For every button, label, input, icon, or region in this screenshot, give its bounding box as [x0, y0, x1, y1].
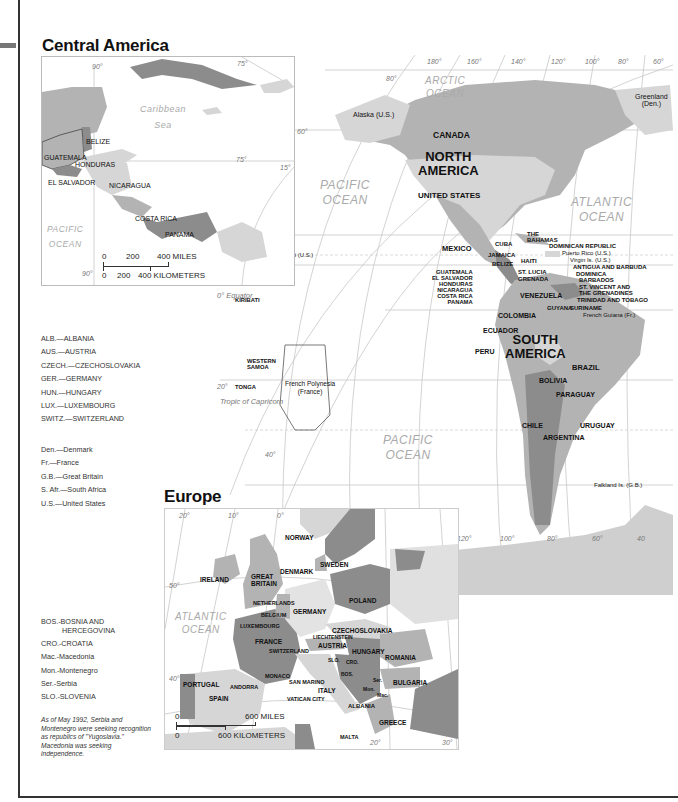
lon-140-label: 140° — [511, 58, 525, 65]
legend-countries-upper: ALB.—ALBANIA AUS.—AUSTRIA CZECH.—CZECHOS… — [41, 335, 140, 429]
eu-label-ireland: IRELAND — [200, 577, 229, 584]
ca-pacific-ocean-label: PACIFICOCEAN — [47, 222, 83, 253]
lon-160-label: 160° — [467, 58, 481, 65]
legend-item: ALB.—ALBANIA — [41, 335, 140, 348]
ca-scale-km-0: 0 — [102, 271, 106, 280]
bottom-lon-80-label: 80° — [547, 535, 558, 542]
yugoslavia-note: As of May 1992, Serbia and Montenegro we… — [41, 716, 156, 759]
eu-label-spain: SPAIN — [209, 696, 228, 703]
ca-label-belize: BELIZE — [86, 138, 110, 145]
label-guyana: GUYANA — [547, 305, 572, 311]
label-peru: PERU — [475, 348, 494, 355]
south-pacific-ocean-label: PACIFICOCEAN — [383, 433, 433, 463]
legend-item: Fr.—France — [41, 459, 106, 472]
ca-scale-km-400: 400 KILOMETERS — [138, 271, 205, 280]
eu-label-portugal: PORTUGAL — [183, 682, 219, 689]
label-jamaica: JAMAICA — [488, 252, 515, 258]
arctic-ocean-label: ARCTICOCEAN — [425, 75, 465, 100]
eu-lon-10w: 10° — [228, 512, 239, 519]
ca-lat-15: 15° — [280, 164, 291, 171]
europe-title: Europe — [164, 487, 221, 507]
ca-lon-75-top: 75° — [237, 60, 248, 67]
label-mexico: MEXICO — [442, 245, 472, 253]
legend-item: LUX.—LUXEMBOURG — [41, 402, 140, 415]
label-barbados: BARBADOS — [579, 277, 614, 283]
legend-item: SWITZ.—SWITZERLAND — [41, 415, 140, 428]
atlantic-ocean-label: ATLANTICOCEAN — [571, 195, 632, 225]
legend-item: GER.—GERMANY — [41, 375, 140, 388]
label-greenland: Greenland(Den.) — [635, 93, 668, 107]
label-falkland-islands: Falkland Is. (G.B.) — [594, 482, 642, 488]
ca-label-panama: PANAMA — [165, 231, 194, 238]
lon-60-label: 60° — [653, 58, 664, 65]
eu-label-belgium: BELGIUM — [261, 613, 286, 619]
north-america-label: NORTHAMERICA — [418, 150, 479, 177]
label-cuba: CUBA — [495, 241, 512, 247]
eu-label-netherlands: NETHERLANDS — [253, 601, 295, 607]
eu-label-switzerland: SWITZERLAND — [269, 649, 309, 655]
label-kiribati: KIRIBATI — [235, 298, 260, 304]
eu-lon-20w: 20° — [179, 512, 190, 519]
eu-label-luxembourg: LUXEMBOURG — [240, 624, 280, 630]
lon-180-label: 180° — [427, 58, 441, 65]
eu-label-denmark: DENMARK — [280, 569, 313, 576]
label-western-samoa: WESTERNSAMOA — [247, 358, 276, 370]
legend-item: HUN.—HUNGARY — [41, 389, 140, 402]
label-bahamas: THEBAHAMAS — [527, 231, 558, 243]
label-french-polynesia: French Polynesia(France) — [285, 380, 335, 396]
eu-label-sweden: SWEDEN — [320, 562, 349, 569]
ca-lon-75-right: 75° — [236, 156, 247, 163]
eu-label-croatia: CRO. — [346, 660, 359, 665]
bottom-lon-100-label: 100° — [500, 535, 514, 542]
eu-label-austria: AUSTRIA — [318, 643, 347, 650]
ca-scale-miles-200: 200 — [126, 252, 139, 261]
eu-label-bosnia: BOS. — [341, 672, 353, 677]
label-uruguay: URUGUAY — [580, 422, 615, 429]
central-america-title: Central America — [42, 36, 169, 56]
eu-label-montenegro: Mon. — [363, 687, 375, 692]
europe-inset: 20° 10° 0° 50° 40° 20° 30° ATLANTICOCEAN… — [164, 508, 459, 750]
ca-scale-km-200: 200 — [117, 271, 130, 280]
label-st-vincent: ST. VINCENT ANDTHE GRENADINES — [579, 284, 633, 296]
label-brazil: BRAZIL — [572, 364, 600, 372]
legend-item: CZECH.—CZECHOSLOVAKIA — [41, 362, 140, 375]
legend-item: Den.—Denmark — [41, 446, 106, 459]
eu-label-san-marino: SAN MARINO — [289, 680, 324, 686]
page-tab-marker — [0, 43, 16, 48]
eu-label-france: FRANCE — [255, 639, 282, 646]
north-pacific-ocean-label: PACIFICOCEAN — [320, 178, 370, 208]
eu-label-norway: NORWAY — [285, 535, 314, 542]
label-grenada: GRENADA — [518, 276, 548, 282]
eu-label-andorra: ANDORRA — [230, 685, 258, 691]
label-st-lucia: ST. LUCIA — [518, 269, 547, 275]
eu-label-italy: ITALY — [318, 688, 336, 695]
eu-label-hungary: HUNGARY — [352, 649, 385, 656]
eu-label-serbia: Ser. — [373, 678, 382, 683]
eu-label-monaco: MONACO — [265, 674, 290, 680]
eu-lon-20e: 20° — [370, 739, 381, 746]
label-french-guiana: French Guiana (Fr.) — [583, 312, 635, 318]
label-colombia: COLOMBIA — [498, 312, 536, 319]
label-virgin-islands: Virgin Is. (U.S.) — [570, 257, 611, 263]
lon-120-label: 120° — [551, 58, 565, 65]
label-alaska: Alaska (U.S.) — [353, 111, 394, 118]
label-chile: CHILE — [522, 422, 543, 429]
eu-label-vatican-city: VATICAN CITY — [287, 697, 325, 703]
ca-label-nicaragua: NICARAGUA — [109, 182, 151, 189]
legend-item: Ser.-Serbia — [41, 680, 115, 693]
legend-item: S. Afr.—South Africa — [41, 486, 106, 499]
eu-label-slovenia: SLO. — [328, 658, 340, 663]
bottom-lon-120-label: 120° — [457, 535, 471, 542]
eu-scale-km-0: 0 — [175, 731, 179, 740]
caribbean-sea-label: CaribbeanSea — [140, 102, 186, 134]
lat-20s-label: 20° — [217, 383, 228, 390]
label-canada: CANADA — [433, 131, 470, 140]
legend-item: AUS.—AUSTRIA — [41, 348, 140, 361]
eu-lon-30e: 30° — [442, 739, 453, 746]
eu-scale-miles-0: 0 — [175, 712, 179, 721]
label-ecuador: ECUADOR — [483, 327, 518, 334]
legend-item: CRO.-CROATIA — [41, 640, 115, 653]
ca-label-honduras: HONDURAS — [75, 161, 115, 168]
central-america-inset: 90° 75° 15° 90° CaribbeanSea PACIFICOCEA… — [41, 56, 295, 286]
ca-scale-miles-400: 400 MILES — [157, 252, 197, 261]
